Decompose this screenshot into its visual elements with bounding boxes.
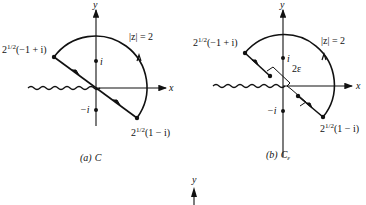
point-i-label: i — [287, 53, 290, 64]
direction-arrow-icon — [113, 100, 120, 105]
circle-arc — [245, 35, 334, 117]
caption-a: (a)C — [80, 152, 102, 164]
upper-left-point-label: 21/2(−1 + i) — [2, 43, 47, 56]
direction-arrow-icon — [252, 60, 258, 65]
gap-label: 2ε — [292, 63, 301, 74]
y-axis-label: y — [279, 0, 285, 10]
point-i-label: i — [100, 56, 103, 67]
caption-b: (b)Cε — [266, 149, 290, 162]
panel-c-partial: y — [191, 174, 197, 205]
endpoint-lower-right — [135, 116, 139, 120]
endpoint-inner-upper — [268, 74, 272, 78]
endpoint-upper-left — [243, 51, 247, 55]
x-axis-label: x — [168, 82, 174, 93]
point-neg-i — [281, 109, 285, 113]
panel-b: x y i −i 2ε |z| = 2 21/2(−1 + i) 21/2(1 … — [193, 0, 361, 162]
point-i — [94, 59, 98, 63]
endpoint-lower-right — [321, 115, 325, 119]
point-i — [281, 56, 285, 60]
point-neg-i — [94, 108, 98, 112]
circle-radius-label: |z| = 2 — [129, 31, 153, 42]
direction-arrow-icon — [306, 103, 312, 108]
endpoint-inner-lower — [296, 94, 300, 98]
panel-a: x y i −i |z| = 2 21/2(−1 + i) 21/2(1 − i… — [2, 0, 174, 164]
y-axis-arrowhead — [191, 187, 197, 197]
x-axis-label: x — [355, 80, 361, 91]
y-axis-label: y — [92, 0, 98, 10]
y-axis-label: y — [191, 174, 197, 185]
circle-radius-label: |z| = 2 — [321, 35, 345, 46]
lower-right-point-label: 21/2(1 − i) — [320, 122, 359, 135]
branch-cut-wavy-line — [213, 85, 285, 88]
point-neg-i-label: −i — [80, 104, 90, 115]
upper-left-point-label: 21/2(−1 + i) — [193, 36, 238, 49]
circle-arc — [54, 36, 147, 118]
endpoint-upper-left — [52, 55, 56, 59]
direction-arrow-icon — [72, 70, 79, 75]
branch-cut-wavy-line — [28, 87, 100, 90]
contour-figure: x y i −i |z| = 2 21/2(−1 + i) 21/2(1 − i… — [0, 0, 366, 205]
point-neg-i-label: −i — [267, 105, 277, 116]
lower-right-point-label: 21/2(1 − i) — [131, 126, 170, 139]
